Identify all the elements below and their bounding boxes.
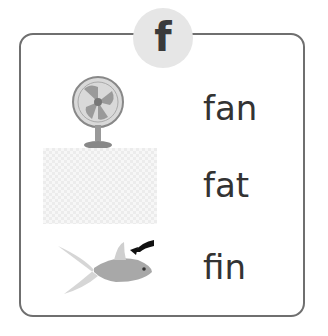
letter: f bbox=[154, 17, 171, 57]
letter-badge: f bbox=[133, 8, 193, 68]
word-row-fan: fan bbox=[40, 75, 300, 155]
word-fat: fat bbox=[203, 168, 249, 202]
placeholder-image bbox=[43, 148, 157, 224]
word-fin: fin bbox=[203, 250, 246, 284]
word-row-fin: fin bbox=[40, 238, 300, 318]
goldfish-fin-icon bbox=[54, 238, 164, 298]
fan-icon bbox=[70, 75, 126, 155]
word-row-fat: fat bbox=[40, 148, 300, 228]
word-fan: fan bbox=[203, 91, 257, 125]
